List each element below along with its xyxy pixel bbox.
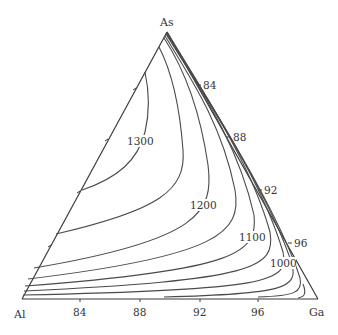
- right-tick-label-96: 96: [294, 237, 308, 249]
- isotherm-label-1100: 1100: [239, 231, 266, 243]
- isotherm-label-1200: 1200: [190, 199, 217, 211]
- isotherm-850: [298, 284, 305, 298]
- isotherms: [23, 32, 305, 298]
- right-tick-label-84: 84: [203, 79, 217, 91]
- bottom-tick-label-96: 96: [251, 306, 265, 318]
- isotherm-1250: [56, 47, 183, 234]
- bottom-axis: 84 88 92 96: [73, 299, 265, 318]
- bottom-tick-label-84: 84: [73, 306, 87, 318]
- right-axis: 84 88 92 96: [197, 79, 308, 249]
- isotherm-1000: [23, 33, 284, 295]
- right-tick-label-88: 88: [233, 131, 246, 143]
- isotherm-1050: [24, 33, 271, 291]
- isotherm-1300: [82, 72, 148, 190]
- isotherm-1150: [28, 36, 236, 279]
- bottom-tick-label-92: 92: [193, 306, 206, 318]
- isotherm-label-1300: 1300: [127, 135, 154, 147]
- vertex-label-al: Al: [13, 308, 26, 321]
- isotherm-label-1000: 1000: [270, 257, 297, 269]
- right-tick-label-92: 92: [264, 184, 277, 196]
- vertex-label-ga: Ga: [309, 306, 325, 319]
- ternary-diagram: As Al Ga 84 88 92 96 84 88 92 96: [0, 0, 338, 335]
- isotherm-1100: [25, 34, 254, 286]
- vertex-label-as: As: [159, 16, 174, 29]
- bottom-tick-label-88: 88: [133, 306, 146, 318]
- left-axis: [48, 88, 136, 247]
